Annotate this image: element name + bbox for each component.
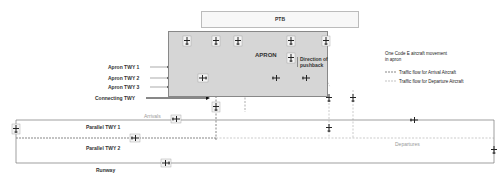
runway-label: Runway	[96, 167, 115, 173]
apron-label: APRON	[255, 52, 277, 58]
apron-twy-1-label: Apron TWY 1	[108, 64, 139, 70]
legend-arrival: Traffic flow for Arrival Aircraft	[399, 70, 456, 75]
parallel-twy-1-label: Parallel TWY 1	[86, 124, 120, 130]
ptb-label: PTB	[202, 16, 358, 22]
legend-departure: Traffic flow for Departure Aircraft	[399, 79, 464, 84]
apron-twy-3-label: Apron TWY 3	[108, 84, 139, 90]
pushback-label: Direction of pushback	[300, 57, 334, 68]
legend-title-2: in apron	[385, 57, 401, 62]
pushback-arrow-icon	[297, 57, 298, 67]
legend-title-1: One Code E aircraft movement	[385, 51, 447, 56]
departures-label: Departures	[395, 141, 420, 147]
connecting-twy-label: Connecting TWY	[95, 95, 135, 101]
arrivals-label: Arrivals	[144, 113, 161, 119]
apron-twy-2-label: Apron TWY 2	[108, 75, 139, 81]
ptb-box: PTB	[201, 11, 359, 28]
parallel-twy-2-label: Parallel TWY 2	[86, 145, 120, 151]
